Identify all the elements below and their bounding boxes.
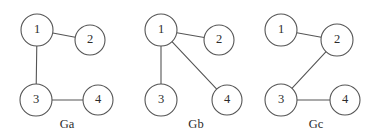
node-label-1: 1 xyxy=(278,22,284,36)
graph-nodes: 1234 xyxy=(20,14,113,116)
graph-nodes: 1234 xyxy=(265,14,360,116)
node-label-4: 4 xyxy=(342,92,349,106)
node-label-2: 2 xyxy=(334,32,340,46)
node-3[interactable]: 3 xyxy=(265,84,297,116)
edge-1-2 xyxy=(297,33,321,37)
node-label-3: 3 xyxy=(278,92,284,106)
graph-gc: 1234Gc xyxy=(265,14,360,131)
graph-diagram-canvas: 1234Ga1234Gb1234Gc xyxy=(0,0,380,138)
node-label-2: 2 xyxy=(216,32,222,46)
graph-caption-gc: Gc xyxy=(309,117,324,131)
graph-ga: 1234Ga xyxy=(20,14,113,131)
node-4[interactable]: 4 xyxy=(330,85,360,115)
edge-1-2 xyxy=(177,33,204,38)
node-label-4: 4 xyxy=(95,92,102,106)
node-label-3: 3 xyxy=(33,92,39,106)
node-label-4: 4 xyxy=(224,92,231,106)
node-label-1: 1 xyxy=(158,22,164,36)
node-label-1: 1 xyxy=(34,22,40,36)
edge-1-3 xyxy=(36,46,37,84)
node-label-2: 2 xyxy=(87,32,93,46)
node-1[interactable]: 1 xyxy=(21,14,53,46)
node-1[interactable]: 1 xyxy=(145,14,177,46)
node-label-3: 3 xyxy=(158,92,164,106)
node-1[interactable]: 1 xyxy=(265,14,297,46)
graph-diagram-figure: 1234Ga1234Gb1234Gc xyxy=(0,0,380,138)
node-2[interactable]: 2 xyxy=(204,25,234,55)
node-4[interactable]: 4 xyxy=(212,85,242,115)
node-3[interactable]: 3 xyxy=(145,84,177,116)
edge-2-3 xyxy=(292,52,326,89)
node-3[interactable]: 3 xyxy=(20,84,52,116)
node-4[interactable]: 4 xyxy=(83,85,113,115)
node-2[interactable]: 2 xyxy=(321,24,353,56)
graph-caption-gb: Gb xyxy=(188,117,203,131)
edge-1-2 xyxy=(53,33,76,37)
node-2[interactable]: 2 xyxy=(75,25,105,55)
graph-caption-ga: Ga xyxy=(60,117,75,131)
graph-gb: 1234Gb xyxy=(145,14,242,131)
